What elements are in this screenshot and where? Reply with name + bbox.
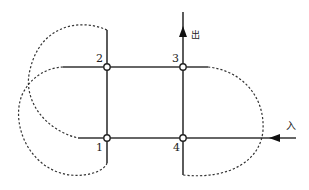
node-3 [180, 64, 186, 70]
loop-ramp-bottom-left [19, 67, 107, 175]
node-label-2: 2 [96, 53, 103, 64]
node-label-4: 4 [173, 142, 180, 153]
node-1 [104, 135, 110, 141]
loop-ramp-top-left [28, 25, 107, 138]
node-2 [104, 64, 110, 70]
node-4 [180, 135, 186, 141]
loop-ramp-right [183, 67, 263, 176]
entry-arrow-icon [269, 134, 280, 142]
node-label-3: 3 [172, 53, 179, 64]
node-label-1: 1 [96, 142, 103, 153]
intersection-diagram [0, 0, 309, 190]
exit-arrow-icon [179, 26, 187, 37]
exit-label: 出 [191, 31, 200, 40]
entry-label: 入 [286, 121, 296, 131]
